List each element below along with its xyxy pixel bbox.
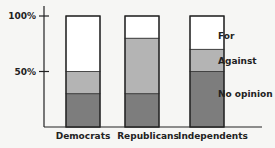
stacked-bar-chart: 100% 50% Democrats Republicans Independe… — [0, 0, 275, 148]
bar-segment-independents-no-opinion — [190, 72, 224, 128]
bar-segment-republicans-against — [125, 38, 159, 93]
category-label-democrats: Democrats — [56, 131, 111, 141]
bar-segment-republicans-no-opinion — [125, 94, 159, 127]
bar-segment-democrats-against — [66, 72, 100, 94]
y-tick-label-50: 50% — [14, 67, 36, 77]
bars — [66, 16, 224, 127]
legend-no-opinion: No opinion — [218, 89, 273, 99]
legend-against: Against — [218, 56, 257, 66]
bar-segment-democrats-no-opinion — [66, 94, 100, 127]
bar-segment-republicans-for — [125, 16, 159, 38]
legend: For Against No opinion — [218, 31, 273, 99]
category-labels: Democrats Republicans Independents — [56, 131, 248, 141]
bar-segment-democrats-for — [66, 16, 100, 72]
y-tick-label-100: 100% — [8, 11, 36, 21]
category-label-republicans: Republicans — [117, 131, 179, 141]
category-label-independents: Independents — [178, 131, 248, 141]
legend-for: For — [218, 31, 235, 41]
